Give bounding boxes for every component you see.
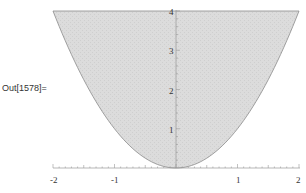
y-tick-label: 3 bbox=[169, 46, 174, 56]
x-axis-ticks bbox=[53, 164, 299, 168]
x-tick-label: 2 bbox=[296, 175, 301, 185]
x-tick-label: 1 bbox=[236, 175, 241, 185]
region-plot: -2 -1 1 2 1 2 3 4 bbox=[0, 0, 306, 193]
x-tick-label: -1 bbox=[111, 175, 119, 185]
y-tick-label: 1 bbox=[169, 125, 174, 135]
x-tick-label: -2 bbox=[50, 175, 58, 185]
y-tick-label: 4 bbox=[169, 7, 174, 17]
y-tick-label: 2 bbox=[169, 86, 174, 96]
